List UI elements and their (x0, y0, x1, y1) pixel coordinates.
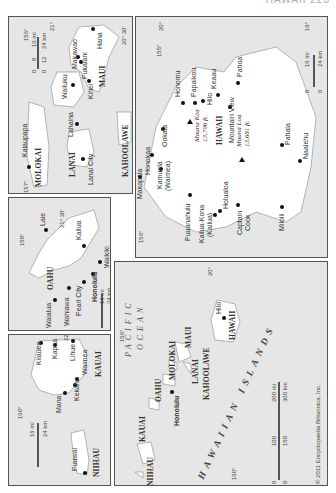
scale-km-24: 24 km (106, 288, 111, 304)
place-dot-honomu (181, 101, 185, 105)
island-label-lanai: LANAI (69, 152, 77, 177)
ov-scale-km-150: 150 (282, 436, 288, 446)
overview-panel: PACIFIC OCEAN HAWAIIAN ISLANDS NIIHAU KA… (114, 261, 328, 486)
place-dot-mana (63, 391, 67, 395)
place-dot-lahaina (75, 122, 79, 126)
place-dot-lanai-city (81, 157, 85, 161)
place-dot-hana (91, 27, 95, 31)
place-ookala: Ookala (161, 125, 168, 147)
ov-island-oahu: OAHU (155, 379, 163, 402)
ov-coord-20: 20° (207, 267, 213, 276)
ov-scale-mi-100: 100 (271, 436, 277, 446)
place-kamuela: Kamuela (156, 161, 163, 189)
place-pearl-city: Pearl City (75, 286, 82, 316)
place-kekaha: Kekaha (73, 377, 80, 401)
place-laie: Laie (39, 213, 46, 226)
scale-bar (278, 382, 280, 480)
place-keaau: Keaau (210, 69, 217, 89)
ov-island-molokai: MOLOKAI (169, 341, 177, 380)
place-kailua: Kailua (75, 221, 82, 240)
ov-island-maui: MAUI (185, 326, 193, 348)
ov-island-lanai: LANAI (192, 359, 200, 384)
place-dot-holualoa (218, 209, 222, 213)
ov-island-kauai: KAUAI (139, 416, 147, 442)
scale-mi-0: 0 (304, 90, 310, 93)
scale-mi-16: 16 mi (99, 289, 105, 304)
place-captain: Captain (236, 211, 243, 235)
place-mountain-view: Mountain View (228, 97, 235, 143)
place-dot-kailua (82, 244, 86, 248)
coord-20-30: 20° 30' (121, 26, 127, 45)
place-honokaa: Honokaa (144, 147, 151, 175)
place-cook: Cook (244, 215, 251, 231)
place-dot-hilo (201, 99, 205, 103)
peak-mauna-kea-elev: 13,796 ft. (202, 115, 209, 142)
place-dot-waialua (53, 298, 57, 302)
place-waikiki: Waikiki (103, 246, 110, 268)
scale-mi-16: 16 mi (31, 32, 37, 47)
place-honolulu: Honolulu (91, 272, 98, 302)
scale-km-0: 0 (41, 70, 47, 73)
copyright: © 2011 Encyclopædia Britannica, Inc. (315, 384, 321, 484)
ov-place-honolulu: Honolulu (173, 396, 180, 426)
island-label-kauai: KAUAI (95, 351, 103, 377)
place-dot-captain-cook (236, 203, 240, 207)
place-dot-pahoa (236, 81, 240, 85)
ov-scale-km-0: 0 (282, 481, 288, 484)
ocean-label-ocean: OCEAN (137, 304, 145, 350)
place-pahoa: Pahoa (236, 57, 243, 77)
place-dot-laie (44, 228, 48, 232)
maui-county-panel: MAUI MOLOKAI LANAI KAHOOLAWE Hana Makawa… (8, 16, 133, 194)
place-waimea: (Waimea) (164, 161, 171, 191)
place-makawao: Makawao (71, 39, 78, 69)
overview-land-shapes (115, 262, 328, 486)
coord-156: 156° (23, 29, 29, 41)
coord-21-30: 21° 30' (59, 209, 65, 228)
ov-scale-mi-0: 0 (271, 481, 277, 484)
ov-place-dot-honolulu (170, 390, 174, 394)
peak-mauna-loa-elev: 13,681 ft. (244, 120, 251, 147)
place-hilo: Hilo (206, 93, 213, 105)
place-naalehu: Naalehu (302, 133, 309, 159)
scale-mi-16: 16 mi (304, 52, 310, 67)
place-hana: Hana (96, 32, 103, 49)
ov-island-niihau: NIIHAU (147, 457, 155, 486)
place-kilauea: Kilauea (35, 342, 42, 365)
place-puuwai: Puuwai (71, 448, 78, 471)
island-label-molokai: MOLOKAI (35, 148, 43, 187)
place-dot-waikiki (98, 260, 102, 264)
place-mana: Mana (55, 395, 62, 413)
place-lahaina: Lahaina (67, 112, 74, 137)
place-puuanahulu: Puuanahulu (184, 204, 191, 241)
ov-island-kahoolawe: KAHOOLAWE (203, 347, 211, 400)
scale-bar (37, 37, 39, 69)
place-milolii: Milolii (278, 214, 285, 232)
scale-km-24: 24 km (42, 421, 48, 437)
scale-mi-16: 16 mi (29, 422, 35, 437)
scale-mi-0: 0 (31, 70, 37, 73)
place-dot-kalaupapa (27, 165, 31, 169)
coord-158: 158° (19, 234, 25, 246)
ocean-label-pacific: PACIFIC (125, 299, 133, 357)
ov-place-dot-hilo (222, 316, 226, 320)
place-kailua-kona: Kailua-Kona (198, 205, 205, 243)
place-dot-puuwai (83, 471, 87, 475)
ov-island-hawaii: HAWAII (229, 310, 237, 340)
place-waialua: Waialua (45, 303, 52, 328)
kauai-panel: KAUAI NIIHAU Kilauea Kapaa Lihue Waimea … (8, 334, 111, 486)
peak-mauna-kea: Mauna Kea (194, 109, 201, 142)
place-papaikou: Papaikou (190, 68, 197, 97)
coord-157: 157° (23, 181, 29, 193)
coord-20: 20° (158, 22, 164, 31)
coord-22: 22° (63, 334, 69, 341)
place-dot-lihue (71, 339, 75, 343)
place-dot-naalehu (298, 159, 302, 163)
place-waimea: Waimea (81, 350, 88, 375)
place-pahala: Pahala (284, 123, 291, 145)
place-dot-keaau (216, 93, 220, 97)
peak-icon-mauna-loa (239, 157, 245, 162)
place-honomu: Honomu (174, 71, 181, 97)
place-kihei: Kihei (87, 83, 94, 99)
place-wahiawa: Wahiawa (63, 297, 70, 326)
hawaii-island-panel: HAWAII Mauna Kea 13,796 ft. Mauna Loa 13… (135, 16, 328, 258)
